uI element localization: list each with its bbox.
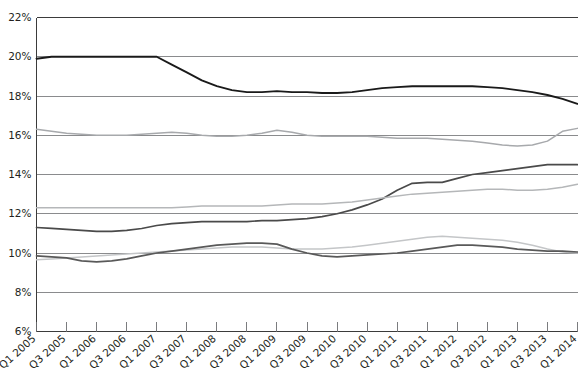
data-series-group (37, 57, 578, 262)
gridlines: 6%8%10%12%14%16%18%20%22% (8, 11, 577, 337)
y-axis-tick-label: 10% (8, 247, 31, 259)
series-line-series-2 (37, 128, 578, 146)
series-line-series-5 (37, 236, 578, 260)
line-chart-container: 6%8%10%12%14%16%18%20%22%Q1 2005Q3 2005Q… (0, 0, 578, 381)
series-line-series-6 (37, 243, 578, 262)
y-axis-tick-label: 20% (8, 50, 31, 62)
y-axis-tick-label: 22% (8, 11, 31, 23)
chart-svg: 6%8%10%12%14%16%18%20%22%Q1 2005Q3 2005Q… (0, 0, 578, 381)
y-axis-tick-label: 14% (8, 168, 31, 180)
y-axis-tick-label: 8% (15, 286, 32, 298)
series-line-series-4 (37, 184, 578, 208)
x-axis-ticks: Q1 2005Q3 2005Q1 2006Q3 2006Q1 2007Q3 20… (0, 322, 578, 372)
y-axis-tick-label: 18% (8, 90, 31, 102)
plot-area: 6%8%10%12%14%16%18%20%22%Q1 2005Q3 2005Q… (0, 0, 578, 381)
y-axis-tick-label: 12% (8, 207, 31, 219)
y-axis-tick-label: 16% (8, 129, 31, 141)
series-line-series-1 (37, 57, 578, 104)
